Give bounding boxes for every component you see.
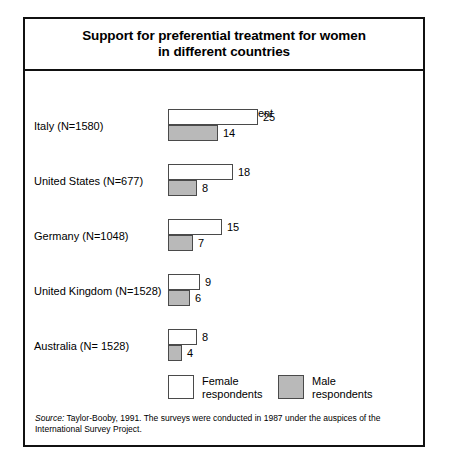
bar-female (168, 109, 258, 125)
figure-title-block: Support for preferential treatment for w… (25, 19, 423, 71)
chart-group: United Kingdom (N=1528)96 (25, 263, 423, 318)
bar-male (168, 290, 190, 306)
bar-female (168, 274, 200, 290)
legend-label-female: Female respondents (202, 375, 263, 401)
figure-container: Support for preferential treatment for w… (23, 17, 425, 447)
bar-value-label: 15 (227, 220, 239, 234)
page-title-line-1: Support for preferential treatment for w… (39, 28, 409, 44)
chart-groups: Italy (N=1580)2514United States (N=677)1… (25, 98, 423, 373)
country-label: Italy (N=1580) (34, 119, 103, 132)
chart-legend: Female respondents Male respondents (25, 375, 423, 415)
bar-value-label: 8 (202, 181, 208, 195)
legend-label-male: Male respondents (312, 375, 373, 401)
chart-group: Australia (N= 1528)84 (25, 318, 423, 373)
source-note: Source: Taylor-Booby, 1991. The surveys … (35, 413, 413, 435)
chart-group: Germany (N=1048)157 (25, 208, 423, 263)
bar-value-label: 6 (195, 291, 201, 305)
country-label: United States (N=677) (34, 174, 143, 187)
bar-male (168, 125, 218, 141)
bar-value-label: 18 (238, 165, 250, 179)
legend-item-male: Male respondents (278, 375, 373, 401)
country-label: United Kingdom (N=1528) (34, 284, 162, 297)
bar-male (168, 235, 193, 251)
bar-male (168, 180, 197, 196)
country-label: Australia (N= 1528) (34, 339, 129, 352)
bar-female (168, 219, 222, 235)
bar-male (168, 345, 182, 361)
source-label: Source: (35, 413, 64, 423)
legend-swatch-female-icon (168, 375, 194, 399)
page-title-line-2: in different countries (39, 44, 409, 60)
bar-value-label: 9 (205, 275, 211, 289)
bar-female (168, 329, 197, 345)
legend-swatch-male-icon (278, 375, 304, 399)
bar-female (168, 164, 233, 180)
bar-value-label: 7 (198, 236, 204, 250)
chart-plot-area: Percent in agreement Italy (N=1580)2514U… (25, 98, 423, 415)
bar-value-label: 8 (202, 330, 208, 344)
bar-value-label: 14 (223, 126, 235, 140)
source-text: Taylor-Booby, 1991. The surveys were con… (35, 413, 380, 434)
chart-group: United States (N=677)188 (25, 153, 423, 208)
bar-value-label: 4 (187, 346, 193, 360)
country-label: Germany (N=1048) (34, 229, 128, 242)
chart-group: Italy (N=1580)2514 (25, 98, 423, 153)
legend-item-female: Female respondents (168, 375, 263, 401)
bar-value-label: 25 (263, 110, 275, 124)
